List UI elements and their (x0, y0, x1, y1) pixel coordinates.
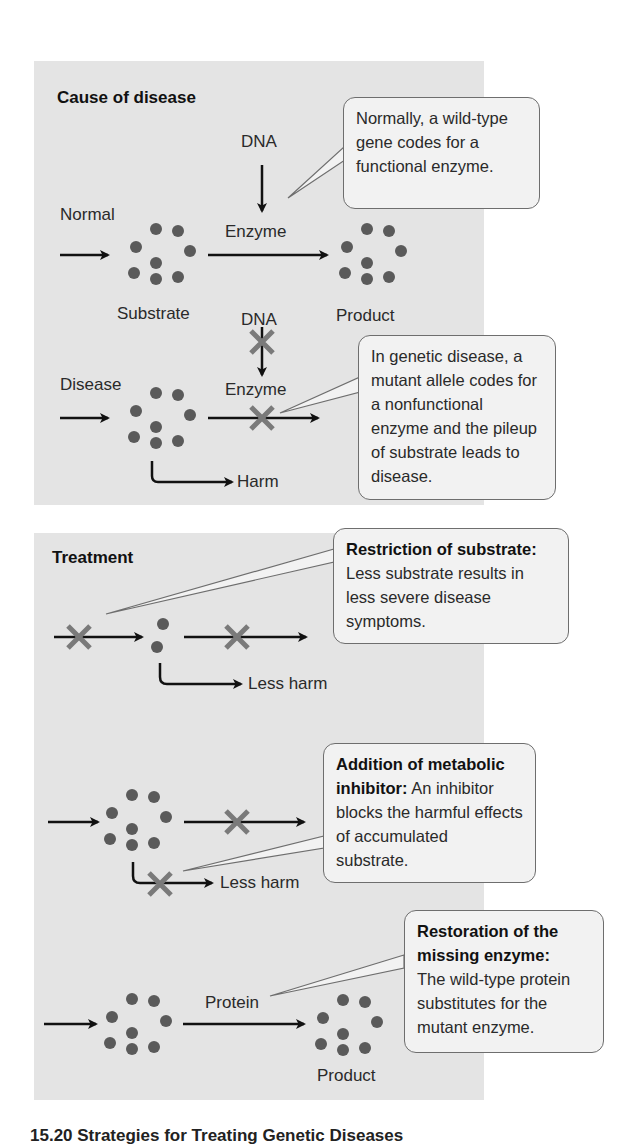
inhibitor-callout: Addition of metabolic inhibitor: An inhi… (323, 743, 536, 883)
protein-label: Protein (205, 993, 259, 1013)
enzyme-label: Enzyme (225, 380, 286, 400)
normal-callout: Normally, a wild-type gene codes for a f… (343, 97, 540, 209)
restriction-pathway (54, 549, 334, 684)
restriction-callout-title: Restriction of substrate: (346, 540, 537, 558)
enzyme-label: Enzyme (225, 222, 286, 242)
restoration-callout: Restoration of the missing enzyme: The w… (404, 910, 604, 1053)
substrate-label: Substrate (117, 304, 190, 324)
disease-pathway (60, 327, 360, 482)
product-label: Product (336, 306, 395, 326)
substrate-molecules (104, 993, 172, 1055)
less-harm-label: Less harm (220, 873, 299, 893)
restoration-callout-title: Restoration of the missing enzyme: (417, 922, 558, 964)
restoration-callout-body: The wild-type protein substitutes for th… (417, 970, 570, 1036)
cause-panel-title: Cause of disease (57, 88, 196, 108)
figure-caption: 15.20 Strategies for Treating Genetic Di… (30, 1126, 403, 1146)
harm-label: Harm (237, 472, 279, 492)
substrate-molecules (104, 789, 172, 851)
less-harm-label: Less harm (248, 674, 327, 694)
substrate-molecules (128, 223, 196, 285)
product-label: Product (317, 1066, 376, 1086)
treatment-panel-title: Treatment (52, 548, 133, 568)
product-molecules (339, 223, 407, 285)
restriction-callout-body: Less substrate results in less severe di… (346, 564, 524, 630)
normal-label: Normal (60, 205, 115, 225)
product-molecules (315, 994, 383, 1056)
restriction-callout: Restriction of substrate: Less substrate… (333, 528, 569, 644)
dna-label: DNA (241, 132, 277, 152)
dna-label: DNA (241, 310, 277, 330)
accumulated-substrate-molecules (128, 387, 196, 449)
disease-callout: In genetic disease, a mutant allele code… (358, 335, 556, 500)
disease-label: Disease (60, 375, 121, 395)
